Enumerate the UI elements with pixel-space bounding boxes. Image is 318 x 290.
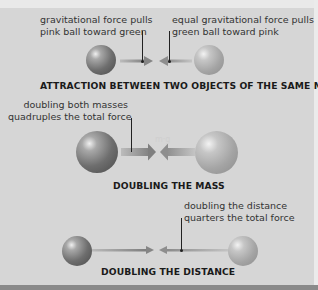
force-arrows <box>0 0 318 290</box>
pink-ball-double <box>76 131 118 173</box>
green-ball <box>194 45 224 75</box>
label-line: quadruples the total force <box>8 111 128 123</box>
green-ball-double <box>195 131 238 174</box>
section1-label-left: gravitational force pulls pink ball towa… <box>40 14 140 38</box>
section1-leader-right <box>169 31 170 61</box>
label-line: equal gravitational force pulls <box>172 14 314 26</box>
section3-leader-dot <box>180 249 183 252</box>
faint-label: m·g <box>155 135 170 144</box>
label-line: green ball toward pink <box>172 26 314 38</box>
section1-leader-dot-right <box>168 60 171 63</box>
section2-title: DOUBLING THE MASS <box>113 180 225 191</box>
pink-ball <box>86 45 116 75</box>
section2-label-left: doubling both masses quadruples the tota… <box>8 99 128 123</box>
section3-arrows <box>90 246 229 254</box>
label-line: gravitational force pulls <box>40 14 140 26</box>
section1-arrows <box>120 56 192 66</box>
bottom-bar <box>0 285 318 290</box>
section1-title: ATTRACTION BETWEEN TWO OBJECTS OF THE SA… <box>40 80 318 91</box>
green-ball-far <box>228 236 258 266</box>
section3-label-right: doubling the distance quarters the total… <box>184 200 295 224</box>
pink-ball-far <box>62 236 92 266</box>
label-line: quarters the total force <box>184 212 295 224</box>
section1-label-right: equal gravitational force pulls green ba… <box>172 14 314 38</box>
label-line: doubling the distance <box>184 200 295 212</box>
section3-title: DOUBLING THE DISTANCE <box>101 266 235 277</box>
section2-leader <box>131 118 132 152</box>
section2-arrows <box>121 144 195 161</box>
section1-leader-left <box>142 31 143 61</box>
section1-leader-dot-left <box>141 60 144 63</box>
label-line: pink ball toward green <box>40 26 140 38</box>
section3-leader <box>181 218 182 251</box>
label-line: doubling both masses <box>8 99 128 111</box>
